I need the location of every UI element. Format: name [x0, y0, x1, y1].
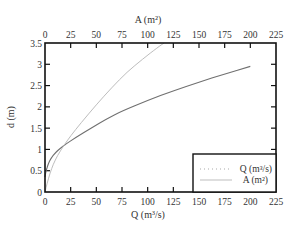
legend-a-label: A (m²) — [243, 175, 268, 186]
x-top-tick-label: 75 — [117, 30, 127, 40]
y-tick-label: 0 — [37, 188, 42, 198]
x-top-tick-label: 0 — [43, 30, 48, 40]
x-top-tick-label: 100 — [141, 30, 156, 40]
x-top-tick-label: 125 — [166, 30, 181, 40]
y-tick-label: 0.5 — [30, 166, 42, 176]
y-tick-label: 3.5 — [30, 39, 42, 49]
x-top-tick-label: 225 — [269, 30, 284, 40]
chart: 0255075100125150175200225025507510012515… — [0, 0, 293, 229]
legend: Q (m³/s) A (m²) — [193, 154, 276, 192]
x-top-tick-label: 175 — [218, 30, 233, 40]
x-bottom-tick-label: 100 — [141, 197, 156, 207]
x-top-tick-label: 50 — [92, 30, 102, 40]
x-top-axis-title: A (m²) — [135, 14, 162, 26]
y-tick-label: 1 — [37, 145, 42, 155]
x-top-tick-label: 150 — [192, 30, 207, 40]
x-bottom-axis-title: Q (m³/s) — [131, 209, 165, 221]
x-top-tick-label: 200 — [243, 30, 258, 40]
y-tick-label: 2 — [37, 102, 42, 112]
y-tick-label: 1.5 — [30, 124, 42, 134]
x-bottom-tick-label: 0 — [43, 197, 48, 207]
x-bottom-tick-label: 225 — [269, 197, 284, 207]
y-tick-label: 2.5 — [30, 81, 42, 91]
x-bottom-tick-label: 150 — [192, 197, 207, 207]
x-bottom-tick-label: 50 — [92, 197, 102, 207]
x-bottom-tick-label: 75 — [117, 197, 127, 207]
y-axis-title: d (m) — [5, 106, 17, 128]
y-tick-label: 3 — [37, 60, 42, 70]
x-top-tick-label: 25 — [66, 30, 76, 40]
x-bottom-tick-label: 175 — [218, 197, 233, 207]
x-bottom-tick-label: 200 — [243, 197, 258, 207]
x-bottom-tick-label: 25 — [66, 197, 76, 207]
legend-q-label: Q (m³/s) — [240, 164, 272, 175]
x-bottom-tick-label: 125 — [166, 197, 181, 207]
